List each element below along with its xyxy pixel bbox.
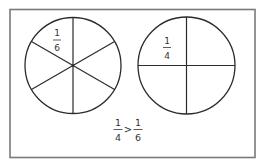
divider-line: [31, 66, 73, 90]
fraction-left: 1 4: [114, 117, 123, 142]
numerator: 1: [164, 36, 170, 46]
fraction-label-one-sixth: 1 6: [53, 28, 61, 53]
denominator: 4: [164, 51, 170, 61]
fraction-label-one-quarter: 1 4: [163, 36, 171, 61]
denominator: 6: [54, 43, 60, 53]
divider-line: [73, 66, 115, 90]
numerator: 1: [115, 117, 121, 128]
numerator: 1: [54, 28, 60, 38]
denominator: 4: [115, 132, 121, 143]
numerator: 1: [135, 117, 141, 128]
greater-than-sign: >: [124, 124, 132, 135]
circle-quarters: 1 4: [138, 17, 235, 114]
divider-line: [31, 42, 73, 66]
fraction-comparison-diagram: 1 6 1 4 1 4 > 1 6: [0, 0, 265, 166]
denominator: 6: [135, 132, 141, 143]
divider-line: [73, 42, 115, 66]
circle-sixths: 1 6: [25, 18, 121, 114]
inequality-expression: 1 4 > 1 6: [114, 117, 143, 142]
fraction-right: 1 6: [134, 117, 143, 142]
center-dot: [72, 64, 75, 67]
diagram-frame: [10, 10, 255, 158]
